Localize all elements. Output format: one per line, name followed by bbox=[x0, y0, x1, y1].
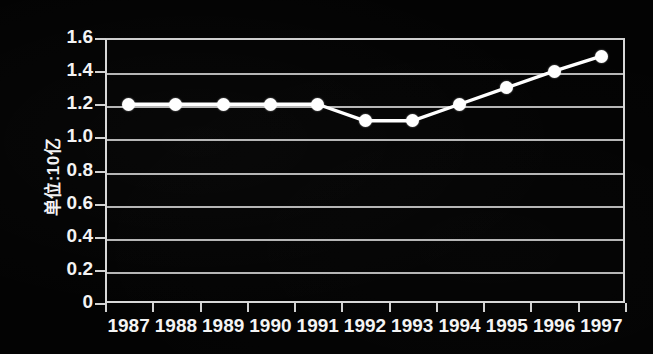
y-axis-tick-label: 1.0 bbox=[43, 125, 93, 147]
y-axis-tick bbox=[95, 104, 105, 106]
x-axis-tick-label: 1995 bbox=[483, 315, 530, 337]
y-axis-tick-label: 1.6 bbox=[43, 26, 93, 48]
x-axis-tick-label: 1993 bbox=[389, 315, 436, 337]
data-point bbox=[406, 114, 419, 127]
y-axis-tick-label: 1.2 bbox=[43, 92, 93, 114]
y-axis-tick bbox=[95, 204, 105, 206]
x-axis-tick-label: 1990 bbox=[247, 315, 294, 337]
gridline bbox=[107, 239, 623, 241]
gridline bbox=[107, 106, 623, 108]
x-axis-tick bbox=[483, 303, 485, 312]
data-point bbox=[217, 98, 230, 111]
y-axis-tick bbox=[95, 237, 105, 239]
y-axis-tick bbox=[95, 38, 105, 40]
y-axis-tick bbox=[95, 270, 105, 272]
gridline bbox=[107, 73, 623, 75]
data-point bbox=[264, 98, 277, 111]
data-point bbox=[453, 98, 466, 111]
gridline bbox=[107, 139, 623, 141]
data-point bbox=[359, 114, 372, 127]
chart-canvas: 单位:10亿 00.20.40.60.81.01.21.41.6 1987198… bbox=[0, 0, 653, 354]
x-axis-tick-label: 1989 bbox=[200, 315, 247, 337]
y-axis-tick bbox=[95, 137, 105, 139]
x-axis-tick-label: 1992 bbox=[341, 315, 388, 337]
x-axis-tick bbox=[578, 303, 580, 312]
gridline bbox=[107, 173, 623, 175]
data-point bbox=[548, 65, 561, 78]
x-axis-tick bbox=[625, 303, 627, 312]
x-axis-tick-label: 1991 bbox=[294, 315, 341, 337]
x-axis-tick bbox=[436, 303, 438, 312]
gridline bbox=[107, 206, 623, 208]
y-axis-tick-label: 0.4 bbox=[43, 225, 93, 247]
data-point bbox=[122, 98, 135, 111]
y-axis-tick-label: 1.4 bbox=[43, 59, 93, 81]
y-axis-tick-label: 0.8 bbox=[43, 159, 93, 181]
x-axis-tick bbox=[389, 303, 391, 312]
x-axis-tick bbox=[105, 303, 107, 312]
x-axis-tick bbox=[530, 303, 532, 312]
y-axis-tick-label: 0 bbox=[43, 291, 93, 313]
y-axis-tick bbox=[95, 171, 105, 173]
x-axis-tick bbox=[341, 303, 343, 312]
x-axis-tick bbox=[247, 303, 249, 312]
x-axis-tick bbox=[200, 303, 202, 312]
data-point bbox=[595, 50, 608, 63]
gridline bbox=[107, 272, 623, 274]
x-axis-tick-label: 1997 bbox=[578, 315, 625, 337]
x-axis-tick bbox=[294, 303, 296, 312]
y-axis-tick bbox=[95, 303, 105, 305]
y-axis-tick-label: 0.6 bbox=[43, 192, 93, 214]
x-axis-tick-label: 1994 bbox=[436, 315, 483, 337]
x-axis-tick bbox=[152, 303, 154, 312]
data-point bbox=[311, 98, 324, 111]
x-axis-tick-label: 1996 bbox=[530, 315, 577, 337]
plot-area bbox=[105, 38, 625, 303]
x-axis-tick-label: 1988 bbox=[152, 315, 199, 337]
y-axis-tick bbox=[95, 71, 105, 73]
y-axis-tick-label: 0.2 bbox=[43, 258, 93, 280]
x-axis-tick-label: 1987 bbox=[105, 315, 152, 337]
